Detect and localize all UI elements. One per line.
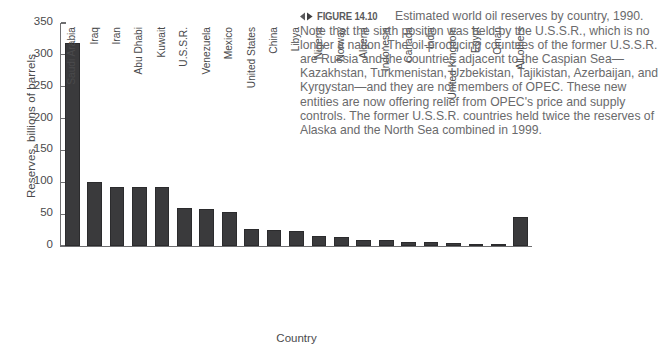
y-tick-label: 300 <box>34 47 53 59</box>
figure-number: FIGURE 14.10 <box>317 9 377 23</box>
bar[interactable] <box>222 212 237 246</box>
y-tick-label: 350 <box>34 15 53 27</box>
bar[interactable] <box>469 244 484 246</box>
x-tick-label: United States <box>247 27 257 88</box>
y-tick-label: 200 <box>34 111 53 123</box>
bar-group[interactable]: Saudi Arabia <box>65 23 80 246</box>
figure-container: Reserves, billions of barrels 0501001502… <box>0 0 670 357</box>
bar-group[interactable]: Iran <box>110 23 125 246</box>
bar[interactable] <box>244 229 259 246</box>
y-tick-label: 100 <box>34 174 53 186</box>
left-right-diamond-icon <box>300 10 313 24</box>
bar-group[interactable]: Mexico <box>222 23 237 246</box>
x-tick-label: Abu Dhabi <box>134 27 144 75</box>
bar[interactable] <box>491 244 506 246</box>
y-tick-label: 250 <box>34 79 53 91</box>
x-tick-label: Kuwait <box>157 27 167 58</box>
bar[interactable] <box>267 230 282 246</box>
figure-caption-text: Estimated world oil reserves by country,… <box>300 9 658 137</box>
bar-chart: Reserves, billions of barrels 0501001502… <box>0 0 300 357</box>
x-tick-label: China <box>269 27 279 54</box>
bar[interactable] <box>424 242 439 246</box>
y-tick-label: 0 <box>47 238 53 250</box>
x-tick-label: U.S.S.R. <box>179 27 189 67</box>
x-tick-label: Mexico <box>224 27 234 59</box>
bar[interactable] <box>199 209 214 246</box>
bar-group[interactable]: Kuwait <box>155 23 170 246</box>
bar[interactable] <box>356 240 371 246</box>
y-tick-label: 150 <box>34 142 53 154</box>
bar-group[interactable]: Venezuela <box>199 23 214 246</box>
bar-group[interactable]: Iraq <box>87 23 102 246</box>
bar[interactable] <box>446 243 461 246</box>
bar-group[interactable]: Abu Dhabi <box>132 23 147 246</box>
y-axis-title: Reserves, billions of barrels <box>25 11 37 241</box>
bar[interactable] <box>87 182 102 246</box>
bar[interactable] <box>110 187 125 246</box>
bar[interactable] <box>334 237 349 246</box>
bar[interactable] <box>177 208 192 246</box>
bar[interactable] <box>155 187 170 246</box>
bar-group[interactable]: China <box>267 23 282 246</box>
x-axis-title: Country <box>61 332 532 344</box>
x-tick-label: Iraq <box>90 27 100 45</box>
x-tick-label: Venezuela <box>202 27 212 75</box>
figure-caption: FIGURE 14.10 Estimated world oil reserve… <box>300 9 662 137</box>
x-tick-label: Iran <box>112 27 122 45</box>
bar-group[interactable]: United States <box>244 23 259 246</box>
bar[interactable] <box>379 240 394 246</box>
bar[interactable] <box>312 236 327 246</box>
bar-group[interactable]: U.S.S.R. <box>177 23 192 246</box>
bar[interactable] <box>401 242 416 246</box>
bar[interactable] <box>132 187 147 246</box>
y-tick-label: 50 <box>40 206 53 218</box>
x-tick-label: Saudi Arabia <box>67 27 77 85</box>
bar[interactable] <box>289 231 304 246</box>
bar[interactable] <box>513 217 528 246</box>
